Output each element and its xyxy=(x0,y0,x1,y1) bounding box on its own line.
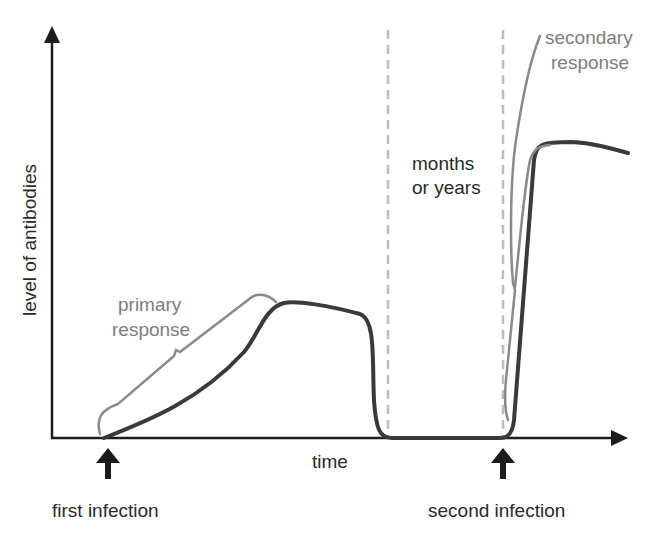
first-infection-arrow-icon xyxy=(96,448,120,479)
y-axis xyxy=(44,26,60,439)
x-axis xyxy=(51,430,628,446)
antibody-response-diagram: level of antibodies time months or years… xyxy=(0,0,667,536)
secondary-response-label-2: response xyxy=(551,52,629,73)
y-axis-arrowhead-icon xyxy=(44,26,60,43)
x-axis-label: time xyxy=(312,451,348,472)
x-axis-arrowhead-icon xyxy=(611,430,628,446)
gap-label-months: months xyxy=(412,153,474,174)
antibody-level-curve xyxy=(104,142,628,438)
primary-response-label: primary xyxy=(118,294,182,315)
y-axis-label: level of antibodies xyxy=(19,164,40,316)
secondary-response-label: secondary xyxy=(545,27,633,48)
gap-label-or-years: or years xyxy=(412,177,481,198)
primary-response-bracket xyxy=(99,295,276,434)
second-infection-label: second infection xyxy=(428,500,565,521)
first-infection-label: first infection xyxy=(52,500,159,521)
primary-response-label-2: response xyxy=(112,319,190,340)
secondary-response-bracket xyxy=(505,36,540,420)
second-infection-arrow-icon xyxy=(491,448,515,479)
